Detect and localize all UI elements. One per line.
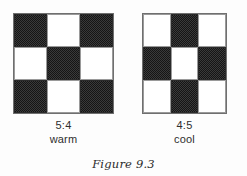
checker-grid-cool	[142, 13, 227, 114]
checker-cell	[47, 14, 80, 47]
checker-cell	[14, 47, 47, 80]
label-group-warm: 5:4 warm	[13, 119, 114, 146]
checker-cell	[80, 80, 113, 113]
checker-cell	[80, 47, 113, 80]
checker-cell	[171, 47, 199, 80]
checker-cell	[14, 14, 47, 47]
checker-cell	[14, 80, 47, 113]
temperature-label-warm: warm	[13, 132, 114, 146]
figure-caption: Figure 9.3	[0, 157, 247, 171]
checker-cell	[198, 80, 226, 113]
ratio-label-cool: 4:5	[142, 119, 227, 132]
checker-cell	[143, 14, 171, 47]
checker-cell	[143, 80, 171, 113]
ratio-label-warm: 5:4	[13, 119, 114, 132]
checker-cell	[171, 80, 199, 113]
checker-cell	[80, 14, 113, 47]
checker-cell	[47, 80, 80, 113]
checker-cell	[143, 47, 171, 80]
temperature-label-cool: cool	[142, 132, 227, 146]
checkerboard-cool	[142, 13, 227, 114]
label-group-cool: 4:5 cool	[142, 119, 227, 146]
checker-cell	[171, 14, 199, 47]
checkerboard-warm	[13, 13, 114, 114]
checker-cell	[198, 14, 226, 47]
checker-grid-warm	[13, 13, 114, 114]
figure-9-3: 5:4 warm 4:5 cool Figure 9.3	[0, 0, 247, 176]
checker-cell	[47, 47, 80, 80]
checker-cell	[198, 47, 226, 80]
